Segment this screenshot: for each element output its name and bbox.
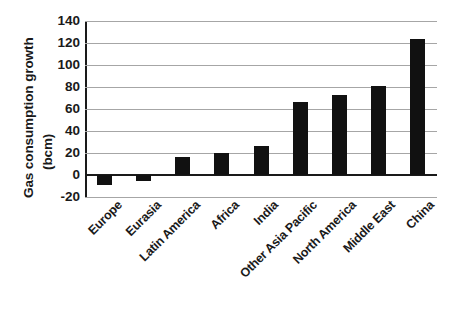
bar bbox=[136, 175, 151, 181]
y-tick-label: 140 bbox=[40, 14, 80, 28]
y-axis-title-line-1: Gas consumption growth bbox=[21, 37, 36, 198]
bar bbox=[410, 39, 425, 175]
x-tick-label: India bbox=[251, 198, 281, 228]
gas-consumption-growth-bar-chart: Gas consumption growth (bcm) 14012010080… bbox=[0, 0, 450, 309]
x-axis-category-labels: EuropeEurasiaLatin AmericaAfricaIndiaOth… bbox=[85, 198, 437, 308]
x-tick-label: Africa bbox=[208, 198, 242, 232]
y-tick-label: 120 bbox=[40, 36, 80, 50]
bar bbox=[293, 102, 308, 175]
bar bbox=[371, 86, 386, 175]
bar bbox=[214, 153, 229, 175]
bar bbox=[332, 95, 347, 175]
y-tick-label: 0 bbox=[40, 168, 80, 182]
y-tick-label: 20 bbox=[40, 146, 80, 160]
x-tick-label: Europe bbox=[85, 198, 125, 238]
y-tick-label: 80 bbox=[40, 80, 80, 94]
bar-series bbox=[85, 21, 437, 197]
y-tick-label: 60 bbox=[40, 102, 80, 116]
bar bbox=[97, 175, 112, 185]
bar bbox=[175, 157, 190, 175]
y-tick-label: -20 bbox=[40, 190, 80, 204]
x-tick-label: China bbox=[404, 198, 438, 232]
plot-area bbox=[85, 21, 437, 197]
y-tick-label: 40 bbox=[40, 124, 80, 138]
y-axis-tick-labels: 140120100806040200-20 bbox=[38, 21, 80, 197]
y-tick-label: 100 bbox=[40, 58, 80, 72]
bar bbox=[254, 146, 269, 175]
